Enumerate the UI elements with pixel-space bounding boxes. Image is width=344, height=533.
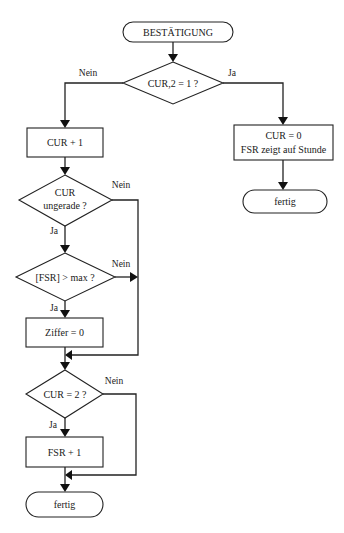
arrowhead-icon <box>60 167 70 175</box>
decision-1-label: CUR,2 = 1 ? <box>148 78 199 89</box>
start-terminal: BESTÄTIGUNG <box>123 22 233 42</box>
d2-yes-label: Ja <box>50 226 59 236</box>
flowchart-canvas: BESTÄTIGUNG CUR,2 = 1 ? Nein Ja CUR = 0 … <box>0 0 344 533</box>
d4-yes-label: Ja <box>49 420 58 430</box>
connector-d3-yes <box>60 301 70 318</box>
process-ziffer-label: Ziffer = 0 <box>45 327 84 338</box>
decision-cur-equals-2: CUR = 2 ? <box>26 370 103 418</box>
d3-no-label: Nein <box>112 259 131 269</box>
d1-no-label: Nein <box>79 68 98 78</box>
arrowhead-icon <box>130 272 138 282</box>
decision-3-label: [FSR] > max ? <box>35 272 95 283</box>
arrowhead-icon <box>60 484 70 492</box>
connector-right-end <box>278 160 288 190</box>
d3-yes-label: Ja <box>50 303 59 313</box>
arrowhead-icon <box>278 117 288 125</box>
process-fsr-plus-label: FSR + 1 <box>48 447 81 458</box>
d1-yes-label: Ja <box>228 68 237 78</box>
decision-cur-odd: CUR ungerade ? <box>19 175 112 226</box>
end-left-label: fertig <box>54 499 76 510</box>
connector-cur-plus-d2 <box>60 157 70 175</box>
connector-start-d1 <box>168 42 178 62</box>
process-ziffer-zero: Ziffer = 0 <box>26 318 103 347</box>
process-fsr-plus-1: FSR + 1 <box>26 437 103 467</box>
process-right-line2: FSR zeigt auf Stunde <box>241 144 327 155</box>
arrowhead-icon <box>60 245 70 253</box>
connector-d1-no <box>60 83 123 128</box>
connector-d1-yes <box>223 83 288 125</box>
connector-d3-no <box>115 272 138 282</box>
arrowhead-icon <box>60 429 70 437</box>
arrowhead-icon <box>65 470 72 480</box>
process-cur-plus-1: CUR + 1 <box>27 128 103 157</box>
d4-no-label: Nein <box>105 376 124 386</box>
decision-2-line2: ungerade ? <box>43 200 87 211</box>
arrowhead-icon <box>60 310 70 318</box>
arrowhead-icon <box>168 54 178 62</box>
arrowhead-icon <box>60 362 70 370</box>
start-label: BESTÄTIGUNG <box>143 27 213 38</box>
decision-2-line1: CUR <box>55 187 76 198</box>
decision-cur2-equals-1: CUR,2 = 1 ? <box>123 62 223 104</box>
decision-4-label: CUR = 2 ? <box>43 389 87 400</box>
process-right-line1: CUR = 0 <box>265 130 301 141</box>
d2-no-label: Nein <box>112 180 131 190</box>
arrowhead-icon <box>65 350 72 360</box>
arrowhead-icon <box>60 120 70 128</box>
decision-fsr-greater-max: [FSR] > max ? <box>16 253 115 301</box>
end-terminal-left: fertig <box>26 492 103 517</box>
connector-d4-yes <box>60 418 70 437</box>
process-cur-zero-fsr-hour: CUR = 0 FSR zeigt auf Stunde <box>234 125 333 160</box>
end-terminal-right: fertig <box>243 190 327 213</box>
end-right-label: fertig <box>274 196 296 207</box>
connector-ziffer-d4 <box>60 347 70 370</box>
connector-fsr-plus-end <box>60 467 70 492</box>
arrowhead-icon <box>278 182 288 190</box>
process-cur-plus-label: CUR + 1 <box>47 137 83 148</box>
connector-d2-yes <box>60 226 70 253</box>
